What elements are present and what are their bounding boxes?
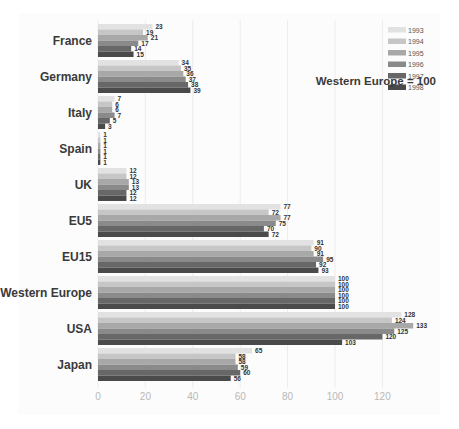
bar	[98, 41, 138, 47]
bar	[98, 304, 335, 310]
value-label: 56	[234, 375, 242, 382]
legend-swatch	[388, 39, 406, 45]
bar	[98, 348, 252, 354]
category-label: Western Europe	[0, 286, 92, 300]
value-label: 95	[326, 256, 334, 263]
bar	[98, 365, 238, 371]
legend-label: 1995	[408, 50, 424, 57]
legend-label: 1994	[408, 38, 424, 45]
bar	[98, 210, 269, 216]
bar	[98, 312, 401, 318]
bar	[98, 257, 323, 263]
legend-swatch	[388, 62, 406, 68]
value-label: 23	[156, 23, 164, 30]
bar	[98, 77, 186, 83]
value-label: 91	[317, 250, 325, 257]
category-label: Japan	[57, 358, 92, 372]
bar	[98, 149, 100, 155]
x-tick-label: 80	[282, 391, 294, 402]
bar	[98, 124, 105, 130]
legend-swatch	[388, 50, 406, 56]
value-label: 5	[113, 117, 117, 124]
bar	[98, 276, 335, 282]
value-label: 125	[397, 328, 408, 335]
bar	[98, 174, 126, 180]
value-label: 100	[338, 303, 349, 310]
bar	[98, 359, 235, 365]
category-label: Germany	[40, 70, 92, 84]
bar	[98, 262, 316, 268]
value-label: 75	[279, 220, 287, 227]
value-label: 15	[137, 51, 145, 58]
bar	[98, 232, 269, 238]
bar	[98, 246, 311, 252]
bar	[98, 268, 318, 274]
legend-swatch	[388, 27, 406, 33]
legend-label: 1993	[408, 27, 424, 34]
bar	[98, 168, 126, 174]
x-tick-label: 60	[235, 391, 247, 402]
bar	[98, 329, 394, 335]
x-tick-label: 0	[95, 391, 101, 402]
bar	[98, 71, 183, 77]
bar	[98, 190, 126, 196]
bar	[98, 24, 153, 30]
category-label: Spain	[59, 142, 92, 156]
bar	[98, 354, 235, 360]
category-label: USA	[67, 322, 93, 336]
value-label: 128	[404, 311, 415, 318]
bar	[98, 46, 131, 52]
category-label: Italy	[68, 106, 92, 120]
value-label: 60	[243, 369, 251, 376]
bar	[98, 185, 129, 191]
x-tick-label: 120	[374, 391, 391, 402]
bar	[98, 370, 240, 376]
bar	[98, 96, 115, 102]
bar	[98, 282, 335, 288]
value-label: 21	[151, 34, 159, 41]
value-label: 65	[255, 347, 263, 354]
bar	[98, 298, 335, 304]
bar	[98, 287, 335, 293]
category-label: EU5	[69, 214, 93, 228]
value-label: 1	[103, 159, 107, 166]
bar	[98, 102, 112, 108]
value-label: 77	[283, 203, 291, 210]
bar	[98, 107, 112, 113]
x-tick-label: 40	[187, 391, 199, 402]
bar	[98, 221, 276, 227]
value-label: 103	[345, 339, 356, 346]
bar	[98, 226, 264, 232]
bar	[98, 318, 392, 324]
x-tick-label: 20	[140, 391, 152, 402]
category-label: UK	[75, 178, 93, 192]
bar	[98, 196, 126, 202]
bar	[98, 30, 143, 36]
bar	[98, 82, 188, 88]
bar	[98, 132, 100, 138]
bar	[98, 52, 134, 58]
bar	[98, 204, 280, 210]
x-tick-label: 100	[327, 391, 344, 402]
value-label: 17	[141, 40, 149, 47]
bar	[98, 340, 342, 346]
value-label: 12	[129, 195, 137, 202]
value-label: 133	[416, 322, 427, 329]
bar	[98, 138, 100, 144]
bar	[98, 88, 190, 94]
value-label: 39	[193, 87, 201, 94]
legend-label: 1996	[408, 61, 424, 68]
value-label: 72	[272, 209, 280, 216]
category-label: EU15	[62, 250, 92, 264]
bar	[98, 66, 181, 72]
bar	[98, 179, 129, 185]
annotation-note: Western Europe = 100	[316, 75, 436, 87]
bar	[98, 251, 314, 257]
value-label: 93	[321, 267, 329, 274]
bar	[98, 60, 179, 66]
value-label: 124	[395, 317, 406, 324]
bar	[98, 376, 231, 382]
bar	[98, 293, 335, 299]
value-label: 120	[385, 333, 396, 340]
bar	[98, 323, 413, 329]
